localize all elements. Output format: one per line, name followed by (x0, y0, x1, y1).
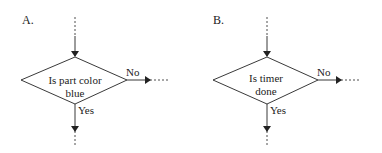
decision-diagram-a: A. Is part color blue No Yes (21, 13, 170, 147)
decision-text-line1: Is timer (249, 72, 283, 84)
yes-label: Yes (270, 104, 286, 116)
decision-text-line2: blue (66, 87, 85, 99)
diagram-label: B. (213, 13, 224, 27)
no-label: No (126, 66, 140, 78)
yes-label: Yes (78, 104, 94, 116)
decision-text-line1: Is part color (48, 74, 101, 86)
decision-text-line2: done (255, 85, 277, 97)
diagram-label: A. (22, 13, 34, 27)
flowchart-canvas: A. Is part color blue No Yes B. Is timer… (0, 0, 382, 153)
no-label: No (317, 66, 331, 78)
decision-diagram-b: B. Is timer done No Yes (213, 13, 361, 147)
